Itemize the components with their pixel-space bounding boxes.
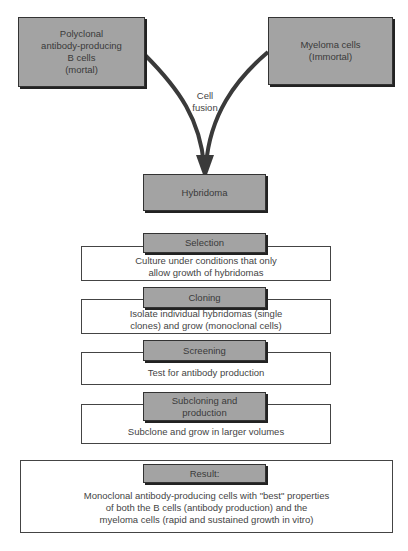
step-description: Test for antibody production — [148, 367, 265, 379]
step-cloning-label-box: Cloning — [143, 287, 266, 308]
step-subcloning-label-box: Subcloning and production — [143, 392, 266, 421]
step-description: Subclone and grow in larger volumes — [128, 426, 284, 438]
hybridoma-box: Hybridoma — [143, 174, 266, 211]
step-screening-label-box: Screening — [143, 340, 266, 361]
step-selection-label-box: Selection — [143, 233, 266, 253]
step-title: Cloning — [188, 292, 220, 304]
hybridoma-label: Hybridoma — [182, 187, 228, 199]
result-label-box: Result: — [143, 464, 266, 483]
step-description: Culture under conditions that only allow… — [135, 255, 277, 279]
step-title: Screening — [183, 345, 226, 357]
step-description: Isolate individual hybridomas (single cl… — [130, 308, 283, 332]
step-title: Selection — [185, 237, 224, 249]
result-description: Monoclonal antibody-producing cells with… — [84, 490, 329, 526]
b-cells-box: Polyclonal antibody-producing B cells (m… — [18, 17, 145, 87]
myeloma-box: Myeloma cells (Immortal) — [268, 17, 393, 85]
myeloma-label: Myeloma cells (Immortal) — [300, 39, 360, 63]
step-title: Subcloning and production — [172, 395, 238, 419]
cell-fusion-label: Cell fusion — [185, 90, 225, 114]
result-title: Result: — [190, 468, 220, 480]
b-cells-label: Polyclonal antibody-producing B cells (m… — [41, 28, 122, 76]
